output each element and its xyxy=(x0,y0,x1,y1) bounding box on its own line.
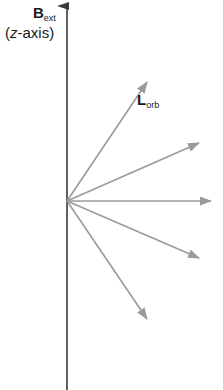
angular-momentum-vectors xyxy=(67,82,211,319)
diagram-canvas xyxy=(0,0,223,390)
lorb-label: Lorb xyxy=(137,91,159,110)
bext-label: Bext xyxy=(33,4,56,23)
z-axis-label: (z-axis) xyxy=(5,24,54,41)
